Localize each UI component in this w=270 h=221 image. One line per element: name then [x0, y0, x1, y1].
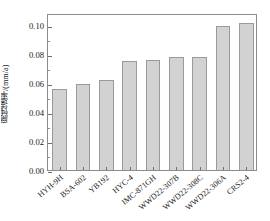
plot-area	[47, 14, 257, 171]
x-tick-mark	[83, 167, 84, 170]
y-tick-label: 0.02	[16, 137, 44, 146]
x-tick-label: HYC-4	[83, 173, 135, 218]
bar	[192, 57, 206, 170]
x-tick-label-text: WWD22-307B	[137, 173, 181, 212]
x-tick-mark	[106, 167, 107, 170]
y-tick-mark-minor	[48, 41, 50, 42]
x-tick-label: CRS2-4	[199, 173, 251, 218]
y-tick-mark	[48, 172, 52, 173]
x-tick-label: WWD22-308C	[153, 173, 205, 218]
x-tick-mark	[246, 167, 247, 170]
x-tick-mark	[153, 167, 154, 170]
y-tick-label: 0.04	[16, 108, 44, 117]
y-tick-mark-minor	[48, 157, 50, 158]
plot-inner	[48, 15, 256, 170]
x-tick-label: WWD22-307B	[129, 173, 181, 218]
x-tick-mark	[223, 167, 224, 170]
x-tick-label-text: IMC-871GH	[120, 173, 158, 207]
y-tick-mark-minor	[48, 99, 50, 100]
x-tick-label: IMC-871GH	[106, 173, 158, 218]
bar	[216, 26, 230, 170]
bar	[52, 89, 66, 170]
bar	[146, 60, 160, 170]
x-tick-mark	[200, 167, 201, 170]
bar	[239, 23, 253, 170]
x-tick-label-text: WWD22-308C	[161, 173, 205, 212]
y-tick-mark	[48, 143, 52, 144]
x-tick-label-text: YB192	[87, 173, 111, 195]
x-tick-label: YB192	[59, 173, 111, 218]
y-tick-label: 0.08	[16, 50, 44, 59]
y-tick-mark-minor	[48, 128, 50, 129]
x-tick-label-text: BSA-602	[59, 173, 88, 200]
chart-figure: 腐蚀速率/(mm/a) 0.000.020.040.060.080.10 HYH…	[0, 0, 270, 221]
y-tick-mark	[48, 56, 52, 57]
x-tick-mark	[176, 167, 177, 170]
bar	[76, 84, 90, 170]
y-tick-mark	[48, 27, 52, 28]
bar	[122, 61, 136, 170]
x-tick-mark	[60, 167, 61, 170]
bar	[99, 80, 113, 170]
x-tick-label-text: HYC-4	[110, 173, 134, 195]
bar	[169, 57, 183, 170]
x-tick-label-text: CRS2-4	[225, 173, 251, 197]
y-tick-label: 0.00	[16, 167, 44, 176]
x-tick-label: WWD22-306A	[176, 173, 228, 218]
x-tick-label-text: WWD22-306A	[184, 173, 228, 212]
y-axis-tick-labels: 0.000.020.040.060.080.10	[16, 0, 44, 221]
y-tick-mark	[48, 85, 52, 86]
y-axis-title: 腐蚀速率/(mm/a)	[1, 38, 15, 150]
x-tick-mark	[130, 167, 131, 170]
y-tick-label: 0.06	[16, 79, 44, 88]
y-tick-mark	[48, 114, 52, 115]
y-tick-label: 0.10	[16, 21, 44, 30]
y-tick-mark-minor	[48, 70, 50, 71]
